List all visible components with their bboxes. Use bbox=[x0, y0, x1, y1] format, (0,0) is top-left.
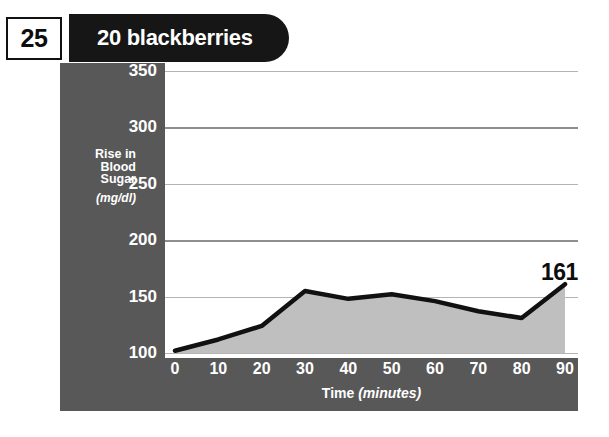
x-tick-label-30: 30 bbox=[296, 360, 314, 378]
x-tick-label-60: 60 bbox=[426, 360, 444, 378]
chart-title: 20 blackberries bbox=[97, 25, 253, 51]
x-axis-unit-label: (minutes) bbox=[358, 385, 421, 401]
end-value-annotation: 161 bbox=[541, 259, 578, 286]
x-tick-label-90: 90 bbox=[556, 360, 574, 378]
x-tick-label-40: 40 bbox=[339, 360, 357, 378]
y-tick-label-250: 250 bbox=[129, 174, 157, 194]
plot-area bbox=[165, 63, 578, 358]
x-tick-label-70: 70 bbox=[469, 360, 487, 378]
y-tick-label-350: 350 bbox=[129, 61, 157, 81]
x-axis-title: Time (minutes) bbox=[165, 385, 578, 401]
x-tick-label-0: 0 bbox=[171, 360, 180, 378]
y-tick-label-150: 150 bbox=[129, 287, 157, 307]
title-pill: 20 blackberries bbox=[69, 14, 289, 62]
x-axis-title-text: Time bbox=[322, 385, 354, 401]
chart-frame: Rise in Blood Sugar (mg/dl) 100150200250… bbox=[60, 63, 578, 411]
chart-header: 25 20 blackberries bbox=[0, 0, 609, 66]
x-tick-label-80: 80 bbox=[513, 360, 531, 378]
figure-number-badge: 25 bbox=[6, 17, 62, 60]
x-axis-ticklabels: 0102030405060708090 bbox=[165, 359, 578, 383]
y-tick-label-300: 300 bbox=[129, 117, 157, 137]
chart-figure: 25 20 blackberries Rise in Blood Sugar (… bbox=[0, 0, 609, 437]
y-axis-panel: Rise in Blood Sugar (mg/dl) 100150200250… bbox=[60, 63, 165, 358]
y-axis-ticklabels: 100150200250300350 bbox=[60, 63, 161, 358]
figure-number-label: 25 bbox=[21, 26, 48, 51]
y-tick-label-200: 200 bbox=[129, 230, 157, 250]
x-tick-label-50: 50 bbox=[383, 360, 401, 378]
x-tick-label-20: 20 bbox=[253, 360, 271, 378]
x-tick-label-10: 10 bbox=[209, 360, 227, 378]
